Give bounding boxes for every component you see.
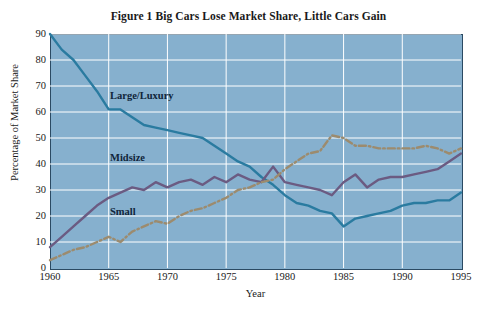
x-tick-label: 1995: [431, 272, 491, 283]
x-axis-title: Year: [50, 288, 461, 299]
series-label-small: Small: [110, 206, 136, 217]
x-tick-label: 1965: [79, 272, 139, 283]
series-lines: [50, 34, 461, 260]
y-tick-label: 20: [2, 211, 46, 222]
gridlines: [50, 34, 461, 268]
x-tick-label: 1990: [372, 272, 432, 283]
y-axis-tick-labels: 0102030405060708090: [0, 0, 46, 311]
y-tick-label: 80: [2, 55, 46, 66]
y-tick-label: 70: [2, 81, 46, 92]
series-label-midsize: Midsize: [110, 152, 145, 163]
y-tick-label: 10: [2, 237, 46, 248]
y-tick-label: 90: [2, 29, 46, 40]
figure-container: Figure 1 Big Cars Lose Market Share, Lit…: [0, 0, 497, 311]
plot-svg: [50, 34, 461, 268]
x-tick-label: 1985: [314, 272, 374, 283]
x-tick-label: 1980: [255, 272, 315, 283]
x-tick-label: 1960: [20, 272, 80, 283]
y-tick-label: 30: [2, 185, 46, 196]
x-tick-label: 1970: [137, 272, 197, 283]
y-tick-label: 50: [2, 133, 46, 144]
series-line-midsize: [50, 154, 461, 248]
x-tick-label: 1975: [196, 272, 256, 283]
y-tick-label: 60: [2, 107, 46, 118]
chart-title: Figure 1 Big Cars Lose Market Share, Lit…: [0, 10, 497, 22]
y-tick-label: 40: [2, 159, 46, 170]
series-label-large-luxury: Large/Luxury: [110, 90, 174, 101]
